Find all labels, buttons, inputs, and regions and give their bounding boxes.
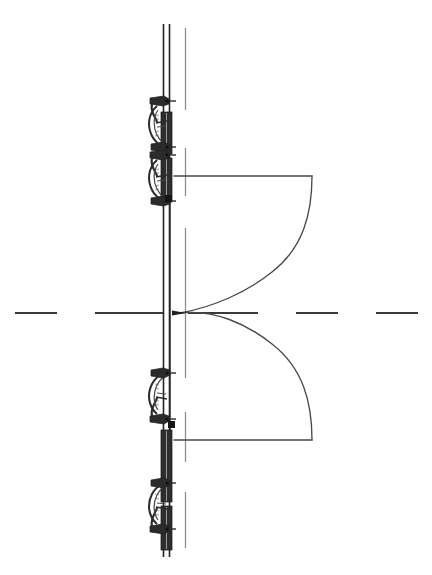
technical-drawing-svg [0,0,432,575]
shaft-fitting-lower-node [168,421,175,428]
shaft-fitting-upper-node [165,195,172,202]
drawing-canvas: Sectional assembly drawing Axisymmetric … [0,0,432,575]
canvas-background [0,0,432,575]
